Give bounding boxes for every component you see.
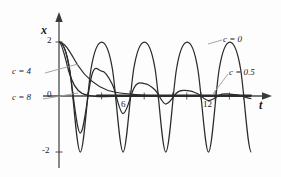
annotation-label-c-0: c = 0: [223, 35, 242, 44]
leader-c-05: [213, 74, 228, 94]
y-tick-label-2: 2: [47, 36, 52, 45]
annotation-label-c-8: c = 8: [12, 93, 31, 102]
x-axis-label: t: [259, 99, 262, 111]
figure-damped-oscillation-graph: x t 2 0 -2 6 12 c = 0 c = 0.5 c = 4 c = …: [0, 0, 281, 177]
leader-c-0: [208, 40, 222, 44]
annotation-label-c-0point5: c = 0.5: [229, 68, 255, 77]
annotation-label-c-4: c = 4: [12, 67, 31, 76]
x-axis-arrowhead: [262, 92, 272, 99]
y-tick-label-neg-2: -2: [42, 146, 50, 155]
y-axis-arrowhead: [55, 12, 62, 22]
leader-c-4: [45, 64, 78, 73]
x-tick-label-12: 12: [203, 100, 212, 109]
x-tick-label-6: 6: [121, 100, 126, 109]
y-tick-label-0: 0: [47, 90, 52, 99]
